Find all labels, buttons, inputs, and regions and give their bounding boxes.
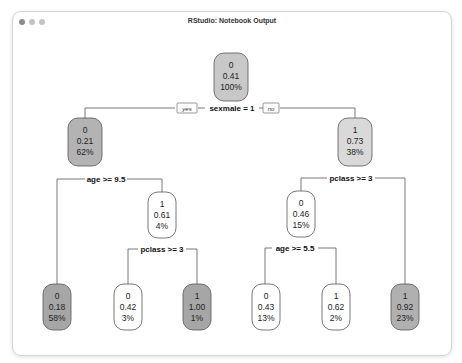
node-3: 1 0.73 38% [338,118,372,166]
svg-text:0.61: 0.61 [154,210,171,220]
svg-text:0.73: 0.73 [347,136,364,146]
svg-text:0: 0 [299,198,304,208]
leaf-3: 1 1.00 1% [183,284,211,330]
yes-label: yes [177,103,197,113]
svg-text:0.41: 0.41 [223,71,240,81]
leaf-2: 0 0.42 3% [114,284,142,330]
svg-text:yes: yes [181,106,191,112]
svg-text:0: 0 [229,60,234,70]
svg-text:3%: 3% [122,313,135,323]
svg-text:0.42: 0.42 [120,302,137,312]
node-6: 0 0.46 15% [287,191,315,237]
leaf-6: 1 0.92 23% [391,284,419,330]
leaf-5: 1 0.62 2% [322,284,350,330]
svg-text:38%: 38% [346,147,363,157]
svg-text:58%: 58% [48,313,65,323]
svg-text:62%: 62% [76,147,93,157]
svg-text:23%: 23% [396,313,413,323]
svg-text:1: 1 [334,291,339,301]
svg-text:0.92: 0.92 [397,302,414,312]
node-5: 1 0.61 4% [148,192,176,238]
split-pclass-right: pclass >= 3 [329,174,373,183]
svg-text:1: 1 [353,125,358,135]
svg-text:1: 1 [195,291,200,301]
svg-text:no: no [268,106,275,112]
svg-text:1: 1 [160,199,165,209]
svg-text:0: 0 [83,125,88,135]
decision-tree-diagram: yes no sexmale = 1 age >= 9.5 pclass >= … [0,0,462,363]
svg-text:1%: 1% [191,313,204,323]
split-age-5-5: age >= 5.5 [276,244,315,253]
svg-text:1: 1 [403,291,408,301]
node-root: 0 0.41 100% [214,53,248,101]
svg-text:4%: 4% [156,221,169,231]
svg-text:15%: 15% [292,220,309,230]
svg-text:0.43: 0.43 [258,302,275,312]
svg-text:0: 0 [55,291,60,301]
svg-text:0: 0 [264,291,269,301]
split-age-9-5: age >= 9.5 [87,175,126,184]
no-label: no [263,103,279,113]
svg-text:0.46: 0.46 [293,209,310,219]
svg-text:0.62: 0.62 [328,302,345,312]
svg-text:0.18: 0.18 [49,302,66,312]
svg-text:0.21: 0.21 [77,136,94,146]
split-pclass-left: pclass >= 3 [140,245,184,254]
svg-text:2%: 2% [330,313,343,323]
leaf-1: 0 0.18 58% [43,284,71,330]
svg-text:100%: 100% [220,82,242,92]
svg-text:1.00: 1.00 [189,302,206,312]
split-sexmale: sexmale = 1 [209,104,255,113]
node-2: 0 0.21 62% [68,118,102,166]
svg-text:0: 0 [126,291,131,301]
leaf-4: 0 0.43 13% [252,284,280,330]
svg-text:13%: 13% [257,313,274,323]
